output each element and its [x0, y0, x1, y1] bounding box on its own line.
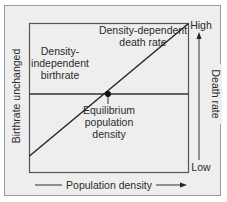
right-axis-high-label: High	[189, 19, 213, 31]
birthrate-label-line3: birthrate	[29, 69, 91, 81]
right-axis-label: Death rate	[210, 64, 222, 124]
right-axis-low-label: Low	[189, 161, 213, 173]
death-rate-label-line1: Density-dependent	[98, 24, 188, 36]
arrow-up-icon	[197, 32, 202, 39]
left-axis-label: Birthrate unchanged	[10, 46, 22, 146]
death-rate-label-line2: death rate	[98, 36, 188, 48]
arrow-right-icon	[180, 183, 187, 188]
equilibrium-label-line1: Equilibrium	[78, 104, 140, 116]
birthrate-label-line1: Density-	[29, 45, 91, 57]
death-rate-line-label: Density-dependent death rate	[98, 24, 188, 48]
equilibrium-label-line3: density	[78, 128, 140, 140]
bottom-axis-label: Population density	[62, 179, 156, 191]
equilibrium-label-line2: population	[78, 116, 140, 128]
birthrate-line-label: Density- independent birthrate	[29, 45, 91, 81]
equilibrium-label: Equilibrium population density	[78, 104, 140, 140]
birthrate-label-line2: independent	[29, 57, 91, 69]
equilibrium-point	[105, 91, 111, 97]
